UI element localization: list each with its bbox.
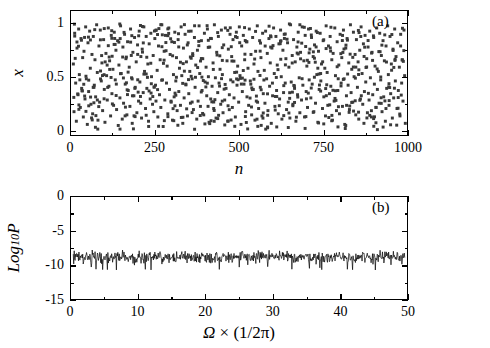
axis-tick — [340, 196, 341, 202]
axis-tick — [239, 130, 240, 136]
axis-tick — [307, 196, 308, 200]
axis-tick — [70, 131, 76, 132]
axis-tick — [405, 213, 409, 214]
ytick-label: -5 — [26, 223, 64, 239]
axis-tick — [402, 23, 408, 24]
axis-tick — [70, 10, 71, 16]
xtick-label: 20 — [198, 304, 212, 320]
xtick-label: 750 — [313, 140, 334, 156]
xtick-label: 500 — [229, 140, 250, 156]
power-symbol: P — [4, 223, 23, 233]
log-text: Log — [4, 246, 23, 272]
xtick-label: 250 — [144, 140, 165, 156]
axis-tick — [239, 10, 240, 16]
log-base-subscript: 10 — [8, 234, 22, 246]
xtick-label: 50 — [401, 304, 415, 320]
axis-tick — [408, 294, 409, 300]
axis-tick — [324, 10, 325, 16]
axis-tick — [405, 248, 409, 249]
axis-tick — [402, 231, 408, 232]
axis-tick — [112, 10, 113, 14]
axis-tick — [374, 196, 375, 200]
axis-tick — [324, 130, 325, 136]
axis-tick — [70, 265, 76, 266]
axis-tick — [239, 196, 240, 200]
axis-tick — [402, 77, 408, 78]
axis-tick — [281, 10, 282, 14]
axis-tick — [408, 196, 409, 202]
axis-tick — [171, 297, 172, 301]
axis-tick — [239, 297, 240, 301]
axis-tick — [366, 133, 367, 137]
xtick-label: 0 — [67, 304, 74, 320]
axis-tick — [307, 297, 308, 301]
axis-tick — [374, 297, 375, 301]
axis-tick — [197, 133, 198, 137]
axis-tick — [366, 10, 367, 14]
ytick-label: 0 — [26, 123, 64, 139]
xtick-label: 0 — [67, 140, 74, 156]
axis-tick — [104, 297, 105, 301]
xtick-label: 1000 — [394, 140, 422, 156]
axis-tick — [70, 300, 76, 301]
panel-a-plot-frame — [70, 10, 408, 136]
axis-tick — [402, 300, 408, 301]
axis-tick — [112, 133, 113, 137]
axis-tick — [171, 196, 172, 200]
axis-tick — [70, 104, 74, 105]
xtick-label: 30 — [266, 304, 280, 320]
ytick-label: -10 — [26, 257, 64, 273]
axis-tick — [205, 294, 206, 300]
axis-tick — [155, 10, 156, 16]
xtick-label: 40 — [333, 304, 347, 320]
ytick-label: 1 — [26, 15, 64, 31]
axis-tick — [408, 10, 409, 16]
figure-root: (a) 02505007501000 00.51 n x (b) 0102030… — [0, 0, 490, 348]
axis-tick — [402, 131, 408, 132]
axis-tick — [405, 283, 409, 284]
axis-tick — [205, 196, 206, 202]
axis-tick — [408, 130, 409, 136]
panel-a-scatter-canvas — [71, 11, 407, 135]
panel-a-label: (a) — [372, 13, 389, 30]
axis-tick — [70, 231, 76, 232]
axis-tick — [155, 130, 156, 136]
ytick-label: 0.5 — [26, 69, 64, 85]
ytick-label: 0 — [26, 188, 64, 204]
axis-tick — [138, 294, 139, 300]
axis-tick — [197, 10, 198, 14]
omega-symbol: Ω — [203, 323, 215, 342]
axis-tick — [340, 294, 341, 300]
axis-tick — [70, 283, 74, 284]
ytick-label: -15 — [26, 292, 64, 308]
axis-tick — [70, 50, 74, 51]
axis-tick — [104, 196, 105, 200]
axis-tick — [402, 265, 408, 266]
axis-tick — [402, 196, 408, 197]
panel-b-yaxis-title: Log10P — [4, 223, 24, 272]
panel-a-xaxis-title: n — [235, 159, 244, 179]
panel-b-label: (b) — [372, 199, 390, 216]
panel-b-plot-frame — [70, 196, 408, 300]
xaxis-b-rest: × (1/2π) — [215, 323, 275, 342]
axis-tick — [70, 248, 74, 249]
axis-tick — [70, 77, 76, 78]
axis-tick — [138, 196, 139, 202]
xtick-label: 10 — [131, 304, 145, 320]
axis-tick — [405, 104, 409, 105]
axis-tick — [405, 50, 409, 51]
axis-tick — [70, 23, 76, 24]
panel-b-xaxis-title: Ω × (1/2π) — [203, 323, 275, 343]
axis-tick — [273, 294, 274, 300]
axis-tick — [281, 133, 282, 137]
axis-tick — [70, 213, 74, 214]
panel-a-yaxis-title: x — [8, 69, 28, 77]
panel-b-spectrum-canvas — [71, 197, 407, 299]
axis-tick — [70, 196, 76, 197]
axis-tick — [273, 196, 274, 202]
